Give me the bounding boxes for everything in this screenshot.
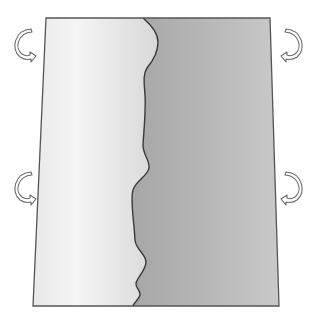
diagram-svg (0, 0, 318, 324)
rotate-arrow-top-right-icon (281, 29, 302, 62)
rotate-arrow-bottom-left-icon (15, 172, 36, 205)
right-region (132, 18, 279, 306)
rotate-arrow-bottom-right-icon (281, 172, 302, 205)
left-region (33, 18, 158, 306)
rotate-arrow-top-left-icon (15, 29, 36, 62)
diagram-canvas: Rectangular sheet split vertically by a … (0, 0, 318, 324)
